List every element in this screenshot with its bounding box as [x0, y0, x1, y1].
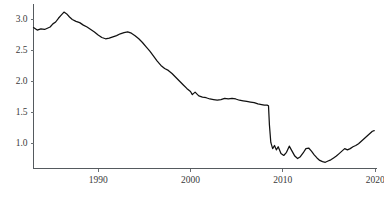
- line-chart: 1.01.52.02.53.0 1990200020102020: [0, 0, 384, 199]
- y-tick-group: 1.01.52.02.53.0: [16, 14, 34, 148]
- x-tick-group: 1990200020102020: [89, 169, 384, 185]
- data-series-line: [34, 12, 375, 162]
- y-tick-label: 1.5: [16, 107, 28, 117]
- x-tick-label: 2000: [181, 175, 200, 185]
- x-tick-label: 1990: [89, 175, 108, 185]
- x-tick-label: 2020: [366, 175, 384, 185]
- x-tick-label: 2010: [273, 175, 292, 185]
- y-tick-label: 2.5: [16, 45, 28, 55]
- y-tick-label: 2.0: [16, 76, 28, 86]
- y-tick-label: 1.0: [16, 138, 28, 148]
- y-tick-label: 3.0: [16, 14, 28, 24]
- chart-container: 1.01.52.02.53.0 1990200020102020: [0, 0, 384, 199]
